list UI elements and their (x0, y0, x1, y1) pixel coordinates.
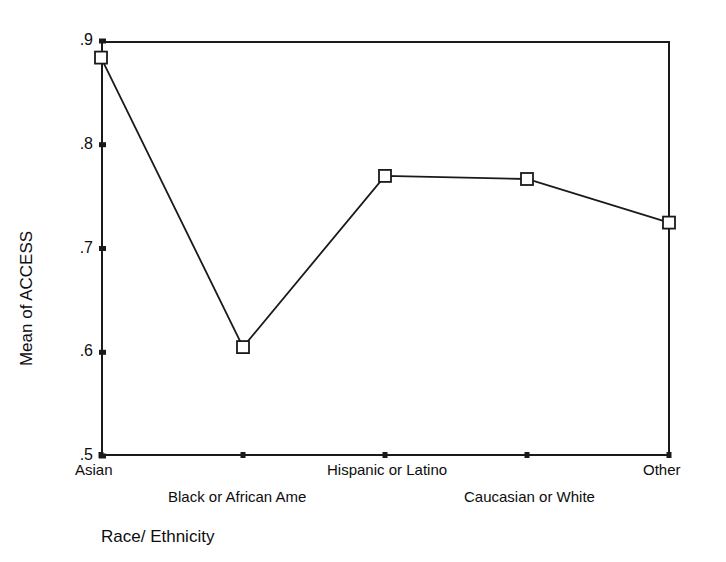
y-axis-tick-label-1: .8 (47, 136, 93, 152)
x-axis-tick-label-asian: Asian (75, 461, 113, 478)
x-axis-title: Race/ Ethnicity (101, 527, 214, 547)
y-axis-title: Mean of ACCESS (17, 214, 36, 384)
x-axis-tick-label-caucasian-or-white: Caucasian or White (464, 488, 595, 505)
y-axis-tick-label-0: .9 (47, 32, 93, 48)
plot-area-frame (101, 41, 670, 456)
y-axis-tick-label-2: .7 (47, 240, 93, 256)
y-axis-tick-label-3: .6 (47, 343, 93, 359)
x-axis-tick-label-other: Other (643, 461, 681, 478)
x-axis-tick-label-hispanic-or-latino: Hispanic or Latino (327, 461, 447, 478)
x-axis-tick-label-black-or-african-ame: Black or African Ame (168, 488, 306, 505)
line-chart: .9 .8 .7 .6 .5 Mean of ACCESS (0, 0, 726, 562)
